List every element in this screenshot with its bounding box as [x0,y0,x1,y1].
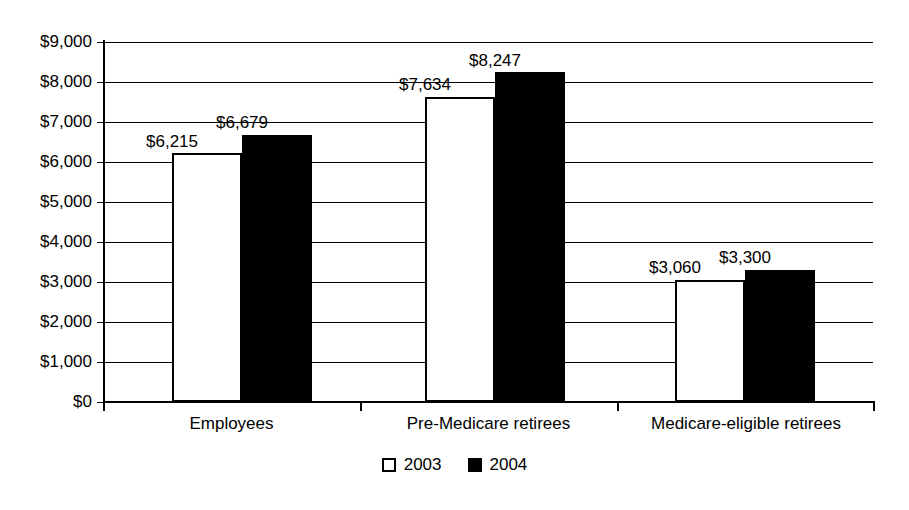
bar-employees-2003[interactable] [172,153,242,402]
legend-item-2003[interactable]: 2003 [382,455,442,474]
x-axis-label-medicare-eligible-retirees: Medicare-eligible retirees [617,414,875,433]
value-label-employees-2003: $6,215 [137,133,207,151]
y-axis-label-6000: $6,000 [0,153,92,170]
chart-legend: 2003 2004 [0,455,909,474]
bar-medicare-eligible-retirees-2003[interactable] [675,280,745,402]
legend-item-2004[interactable]: 2004 [468,455,528,474]
bar-pre-medicare-retirees-2004[interactable] [495,72,565,402]
x-axis-label-pre-medicare-retirees: Pre-Medicare retirees [360,414,617,433]
x-axis-tick-0 [103,402,105,411]
y-axis-label-3000: $3,000 [0,273,92,290]
x-axis-line [103,401,875,403]
value-label-medicare-eligible-retirees-2004: $3,300 [710,249,780,267]
bar-employees-2004[interactable] [242,135,312,402]
bar-pre-medicare-retirees-2003[interactable] [425,97,495,402]
y-axis-label-4000: $4,000 [0,233,92,250]
y-axis-line [103,40,105,404]
legend-label-2003: 2003 [404,455,442,474]
y-axis-label-0: $0 [0,393,92,410]
x-axis-label-employees: Employees [103,414,360,433]
black-square-icon [468,458,482,472]
x-axis-tick-2 [617,402,619,411]
y-axis-label-5000: $5,000 [0,193,92,210]
value-label-pre-medicare-retirees-2004: $8,247 [460,52,530,70]
y-axis-label-8000: $8,000 [0,73,92,90]
x-axis-tick-1 [360,402,362,411]
white-square-icon [382,458,396,472]
y-axis-label-9000: $9,000 [0,33,92,50]
y-axis-label-7000: $7,000 [0,113,92,130]
value-label-employees-2004: $6,679 [207,114,277,132]
bar-medicare-eligible-retirees-2004[interactable] [745,270,815,402]
x-axis-tick-3 [873,402,875,411]
plot-area [103,42,873,402]
y-axis-label-1000: $1,000 [0,353,92,370]
gridline-9000 [103,42,873,43]
value-label-medicare-eligible-retirees-2003: $3,060 [640,259,710,277]
value-label-pre-medicare-retirees-2003: $7,634 [390,76,460,94]
legend-label-2004: 2004 [490,455,528,474]
bar-chart: $9,000 $8,000 $7,000 $6,000 $5,000 $4,00… [0,0,909,510]
gridline-8000 [103,82,873,83]
y-axis-label-2000: $2,000 [0,313,92,330]
